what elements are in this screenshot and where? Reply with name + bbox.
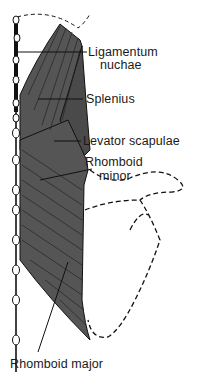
label-ligamentum-nuchae-2: nuchae <box>100 58 142 72</box>
label-rhomboid-minor-2: minor <box>99 169 131 183</box>
label-rhomboid-major: Rhomboid major <box>10 357 103 371</box>
skull-outline <box>17 14 90 28</box>
label-rhomboid-minor: Rhomboid <box>85 155 143 169</box>
label-splenius: Splenius <box>86 92 135 106</box>
label-levator-scapulae: Levator scapulae <box>83 134 180 148</box>
rhomboid-muscles <box>20 120 90 340</box>
scapula-outline <box>85 170 183 337</box>
label-ligamentum-nuchae: Ligamentum <box>88 45 158 59</box>
